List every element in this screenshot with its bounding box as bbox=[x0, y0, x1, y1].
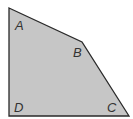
vertex-label-a: A bbox=[14, 18, 24, 33]
quadrilateral-diagram: A B C D bbox=[0, 0, 133, 119]
vertex-label-b: B bbox=[73, 45, 82, 60]
vertex-label-d: D bbox=[14, 100, 23, 115]
vertex-label-c: C bbox=[107, 100, 117, 115]
